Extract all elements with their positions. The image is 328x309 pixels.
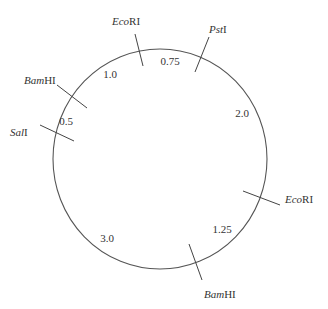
site-label-bamhi-left: BamHI	[24, 74, 56, 86]
restriction-site-ticks	[40, 34, 280, 280]
site-label-ecori-right: EcoRI	[284, 193, 313, 205]
fragment-size-label: 0.75	[160, 55, 180, 67]
site-tick-bamhi-bottom	[189, 244, 202, 280]
site-label-sali: SalI	[10, 126, 28, 138]
plasmid-circle	[53, 49, 267, 269]
site-tick-ecori-top	[135, 34, 143, 66]
fragment-size-label: 3.0	[100, 232, 114, 244]
fragment-size-label: 2.0	[235, 107, 249, 119]
fragment-size-label: 1.25	[212, 223, 232, 235]
fragment-size-labels: 0.752.01.253.00.51.0	[59, 55, 249, 244]
site-label-bamhi-bottom: BamHI	[204, 288, 236, 300]
restriction-map: EcoRIPstIEcoRIBamHISalIBamHI 0.752.01.25…	[0, 0, 328, 309]
site-tick-psti	[195, 37, 209, 72]
fragment-size-label: 1.0	[103, 68, 117, 80]
fragment-size-label: 0.5	[59, 115, 73, 127]
site-label-psti: PstI	[208, 23, 227, 35]
site-tick-bamhi-left	[57, 85, 87, 108]
site-label-ecori-top: EcoRI	[111, 15, 140, 27]
